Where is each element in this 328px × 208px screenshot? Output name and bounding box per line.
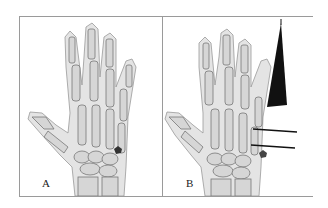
- panel-label-a: A: [42, 177, 50, 189]
- panel-a: A: [20, 17, 162, 196]
- hand-skeleton-illustration-a: [20, 17, 162, 196]
- panel-b: B: [163, 17, 313, 196]
- hand-skeleton-illustration-b: [163, 17, 313, 196]
- panel-label-b: B: [186, 177, 193, 189]
- frame-bottom: [19, 196, 313, 197]
